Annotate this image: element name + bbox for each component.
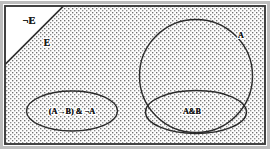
- label-A-fg: A: [238, 31, 244, 40]
- label-implication-formula-fg: (A→B) & ¬A: [49, 107, 96, 116]
- venn-diagram-figure: ¬E ¬E E E A A (A→B) & ¬A (A→B) & ¬A A&B …: [0, 0, 274, 152]
- label-not-E-fg: ¬E: [23, 15, 36, 26]
- label-A-and-B-fg: A&B: [183, 107, 202, 116]
- label-E-fg: E: [44, 38, 50, 48]
- venn-diagram-canvas: ¬E ¬E E E A A (A→B) & ¬A (A→B) & ¬A A&B …: [0, 0, 274, 152]
